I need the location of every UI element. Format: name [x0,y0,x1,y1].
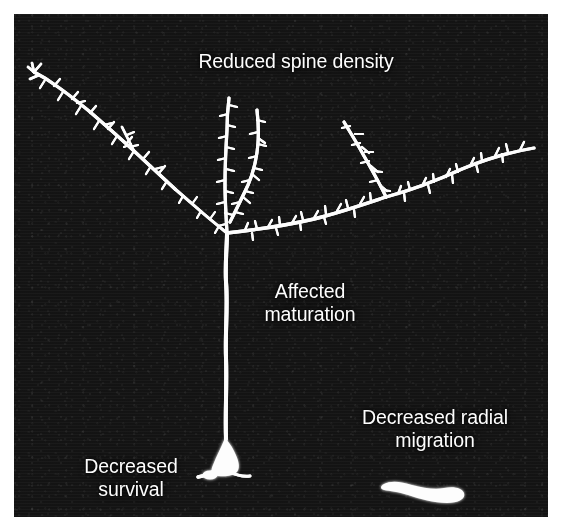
dendrite-right-long [386,142,534,201]
soma [203,438,239,480]
label-affected-maturation: Affected maturation [242,280,378,326]
label-reduced-spine-density: Reduced spine density [176,50,416,73]
dendrite-left-long [28,63,175,189]
apical-trunk [226,233,227,439]
label-decreased-radial-migration: Decreased radial migration [338,406,532,452]
dendrite-right-arc [342,122,390,197]
label-decreased-survival: Decreased survival [56,455,206,501]
figure-root: Reduced spine density Affected maturatio… [0,0,563,531]
micrograph-panel: Reduced spine density Affected maturatio… [14,14,548,517]
horizontal-branch-right [227,193,386,240]
dendrite-left-oblique [175,189,227,233]
migrated-cell [381,482,464,503]
